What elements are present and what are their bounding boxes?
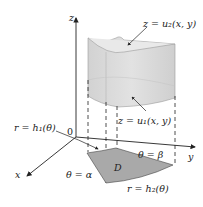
x-axis-label: x	[15, 169, 21, 180]
origin-label: 0	[67, 126, 73, 137]
angle-beta-label: θ = β	[138, 149, 164, 160]
top-surface-label: z = u₂(x, y)	[142, 18, 196, 29]
bottom-surface-label: z = u₁(x, y)	[117, 115, 171, 126]
outer-radius-label: r = h₂(θ)	[127, 183, 169, 194]
solid-body	[88, 37, 175, 107]
pointer-inner-radius	[56, 131, 98, 149]
angle-alpha-label: θ = α	[66, 169, 93, 180]
region-d-label: D	[113, 162, 122, 173]
y-axis	[76, 137, 195, 147]
y-axis-label: y	[187, 151, 194, 162]
z-axis-label: z	[68, 12, 75, 23]
inner-radius-label: r = h₁(θ)	[14, 122, 56, 133]
solid-region-diagram: z y x 0 z = u₂(x, y) z = u₁(x, y) r = h₁…	[0, 0, 203, 207]
